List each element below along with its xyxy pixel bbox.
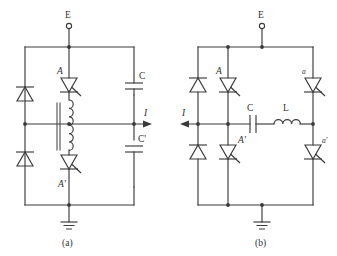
thyristor-A-a [60, 78, 81, 100]
junction-top-b [260, 45, 264, 49]
junction-mid-right-b [311, 122, 315, 126]
label-a-b: a [302, 67, 306, 76]
junction-mid-center-b [226, 122, 230, 126]
junction-midleft-a [23, 122, 27, 126]
label-E-b: E [258, 10, 264, 20]
thyristor-a-b [304, 78, 325, 96]
current-arrow-a [143, 121, 152, 128]
label-A-prime-a: A' [57, 179, 67, 189]
diode-upper-left-b [189, 78, 207, 92]
circuit-diagram-canvas: I [0, 0, 337, 256]
label-E-a: E [65, 10, 71, 20]
junction-midright-a [132, 122, 136, 126]
label-C-prime-a: C' [138, 134, 146, 144]
circuit-figure: I [0, 0, 337, 256]
subfigure-a: I [16, 23, 152, 249]
junction-mid-left-b [196, 122, 200, 126]
terminal-E-a[interactable] [66, 23, 71, 28]
label-I-a: I [143, 108, 148, 118]
subfigure-b: I [180, 23, 328, 249]
capacitor-C-a [125, 83, 143, 95]
thyristor-A-b [219, 78, 240, 96]
label-L-b: L [283, 103, 289, 113]
caption-a: (a) [62, 238, 73, 249]
current-arrow-b [180, 121, 189, 128]
label-a-prime-b: a' [322, 136, 328, 145]
coupled-inductor-a [57, 100, 73, 155]
inductor-L-b [274, 120, 300, 124]
capacitor-C-prime-a [125, 146, 143, 152]
terminal-E-b[interactable] [259, 23, 264, 28]
label-C-a: C [139, 71, 145, 81]
thyristor-a-prime-b [304, 145, 325, 163]
capacitor-C-b [250, 115, 256, 133]
diode-lower-left-b [189, 145, 207, 159]
label-A-prime-b: A' [237, 135, 247, 145]
label-C-b: C [247, 103, 253, 113]
label-A-b: A [215, 66, 222, 76]
ground-symbol-b [254, 222, 270, 229]
thyristor-A-prime-b [219, 145, 240, 163]
ground-symbol-a [61, 222, 77, 229]
junction-bottom-left-b [226, 203, 230, 207]
label-A-a: A [56, 66, 63, 76]
caption-b: (b) [255, 238, 266, 249]
label-I-b: I [181, 108, 186, 118]
